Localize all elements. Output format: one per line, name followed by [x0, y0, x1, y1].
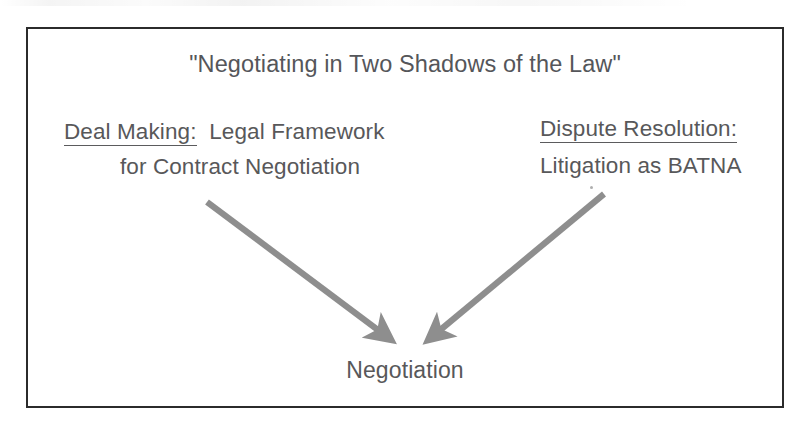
page-title: "Negotiating in Two Shadows of the Law" [0, 51, 810, 78]
deal-making-colon: : [190, 119, 196, 146]
deal-making-line-2: for Contract Negotiation [62, 149, 412, 184]
scan-noise-artifact [0, 0, 810, 6]
dispute-resolution-text-block: Dispute Resolution: Litigation as BATNA [540, 110, 735, 184]
dispute-resolution-line-1: Dispute Resolution: [540, 110, 735, 147]
dispute-resolution-heading: Dispute Resolution: [540, 116, 737, 143]
deal-making-line-1-rest: Legal Framework [209, 119, 384, 144]
dispute-resolution-line-2: Litigation as BATNA [540, 147, 735, 184]
deal-making-line-1: Deal Making: Legal Framework [62, 114, 412, 149]
deal-making-heading: Deal Making [64, 119, 190, 146]
scan-speck-artifact [590, 186, 593, 189]
negotiation-label: Negotiation [0, 357, 810, 384]
slide-border-frame [26, 27, 784, 408]
deal-making-text-block: Deal Making: Legal Framework for Contrac… [62, 114, 412, 184]
scanned-page-canvas: "Negotiating in Two Shadows of the Law" … [0, 0, 810, 440]
